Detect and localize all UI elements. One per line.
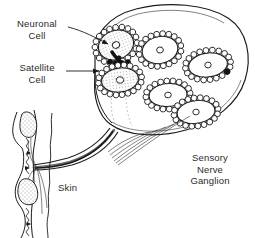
label-sensory-nerve-ganglion: Sensory Nerve Ganglion [170,152,250,187]
label-skin: Skin [58,182,98,194]
sensory-corpuscle-lower [18,179,38,205]
impulse-arrow-2 [25,166,30,170]
label-satellite-cell: Satellite Cell [4,62,70,85]
sensory-ganglion-diagram: Neuronal Cell Satellite Cell Skin Sensor… [0,0,255,238]
neuron-nucleus [204,62,211,69]
neuron-nucleus [192,109,199,115]
nerve-ending-coil-lower [26,208,29,236]
impulse-arrow-3 [27,222,31,226]
label-neuronal-cell: Neuronal Cell [4,18,70,41]
skin-layer [13,110,52,238]
sensory-corpuscle-upper [20,112,37,137]
nerve-trunk [33,128,118,170]
neuron-nucleus [116,76,124,83]
neuron-nucleus [164,92,171,98]
